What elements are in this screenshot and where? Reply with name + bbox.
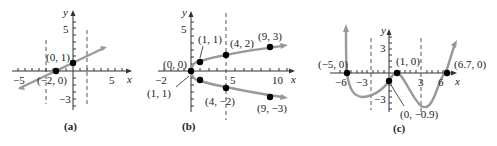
tick-label-neg5: −5 bbox=[13, 74, 25, 86]
lower-curve bbox=[191, 71, 282, 97]
y-label: y bbox=[380, 24, 386, 36]
x-label: x bbox=[126, 73, 132, 85]
panel-b: y x −2 5 10 5 (0, 0) (1, 1) (4, 2) (9, 3… bbox=[147, 6, 296, 133]
upper-arrow-icon bbox=[280, 43, 288, 49]
tick-label-6: 6 bbox=[438, 76, 444, 88]
tick-label-y5: 5 bbox=[63, 23, 69, 35]
tick-label-yneg3: −3 bbox=[59, 93, 71, 105]
tick-label-neg2: −2 bbox=[155, 74, 167, 86]
point-1-0 bbox=[394, 70, 400, 76]
point-label-9-3: (9, 3) bbox=[258, 30, 282, 43]
caption-a: (a) bbox=[64, 120, 77, 133]
point-4-2 bbox=[223, 52, 229, 58]
tick-label-y5: 5 bbox=[181, 23, 187, 35]
point-label-1-neg1: (1, 1) bbox=[147, 87, 171, 100]
left-arrow-icon bbox=[343, 24, 349, 32]
figure: y x −5 5 5 −3 (0, 1) (−2, 0) (a) bbox=[0, 0, 497, 146]
pointer-1-1 bbox=[200, 46, 203, 58]
polynomial-curve bbox=[346, 30, 455, 107]
upper-curve bbox=[191, 46, 282, 71]
caption-b: (b) bbox=[182, 120, 196, 133]
tick-label-3: 3 bbox=[418, 76, 424, 88]
panel-a: y x −5 5 5 −3 (0, 1) (−2, 0) (a) bbox=[12, 6, 132, 133]
point-1-neg1 bbox=[197, 77, 203, 83]
point-label-4-2: (4, 2) bbox=[230, 37, 254, 50]
tick-label-neg3: −3 bbox=[356, 76, 368, 88]
y-label: y bbox=[181, 6, 187, 18]
tick-label-5: 5 bbox=[230, 74, 236, 86]
point-label-neg2-0: (−2, 0) bbox=[37, 74, 67, 87]
point-6.7-0 bbox=[444, 70, 450, 76]
y-axis-arrow-icon bbox=[189, 11, 194, 17]
tick-label-5: 5 bbox=[109, 74, 115, 86]
point-label-1-0: (1, 0) bbox=[396, 55, 420, 68]
y-label: y bbox=[62, 6, 68, 18]
point-label-0-0: (0, 0) bbox=[163, 58, 187, 71]
point-0-0 bbox=[188, 68, 194, 74]
pointer-1-neg1 bbox=[176, 76, 189, 87]
x-label: x bbox=[290, 73, 296, 85]
y-axis-arrow-icon bbox=[387, 29, 392, 35]
point-4-neg2 bbox=[223, 85, 229, 91]
point-label-neg5-0: (−5, 0) bbox=[318, 58, 348, 71]
point-0-1 bbox=[70, 60, 76, 66]
right-arrow-icon bbox=[451, 40, 457, 48]
lower-arrow-icon bbox=[280, 94, 288, 100]
y-axis-arrow-icon bbox=[71, 10, 76, 16]
point-0-neg0.9 bbox=[386, 78, 392, 84]
pointer-0-neg0.9 bbox=[391, 85, 404, 106]
tick-label-yneg3: −3 bbox=[374, 93, 386, 105]
point-label-0-neg0.9: (0, −0.9) bbox=[400, 108, 439, 121]
point-9-3 bbox=[267, 44, 273, 50]
x-label: x bbox=[454, 75, 460, 87]
caption-c: (c) bbox=[393, 122, 406, 135]
point-label-4-neg2: (4, −2) bbox=[205, 95, 235, 108]
point-label-9-neg3: (9, −3) bbox=[257, 102, 287, 115]
tick-label-y3: 3 bbox=[380, 42, 386, 54]
tick-label-neg6: −6 bbox=[335, 76, 347, 88]
point-1-1 bbox=[197, 59, 203, 65]
point-label-1-1: (1, 1) bbox=[198, 33, 222, 46]
tick-label-10: 10 bbox=[272, 74, 284, 86]
point-label-6.7-0: (6.7, 0) bbox=[454, 58, 486, 71]
point-label-0-1: (0, 1) bbox=[46, 51, 70, 64]
panel-c: y x −6 −3 3 6 3 −3 (−5, 0) (1, 0) (6.7, … bbox=[318, 24, 486, 135]
point-9-neg3 bbox=[267, 94, 273, 100]
